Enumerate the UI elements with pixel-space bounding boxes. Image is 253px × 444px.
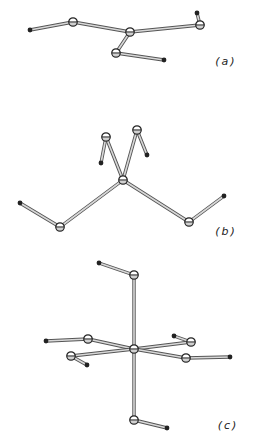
ring-atom bbox=[130, 271, 138, 279]
bond-highlight bbox=[189, 196, 224, 222]
bond-highlight bbox=[130, 25, 200, 32]
panel-label-c: (c) bbox=[218, 419, 239, 432]
small-atom bbox=[99, 161, 104, 166]
panel-c bbox=[44, 261, 233, 431]
ring-atom bbox=[112, 49, 120, 57]
bond-highlight bbox=[134, 349, 186, 358]
ring-atom bbox=[119, 176, 127, 184]
ring-atom bbox=[130, 345, 138, 353]
bond-highlight bbox=[116, 53, 164, 60]
small-atom bbox=[222, 194, 227, 199]
bond-highlight bbox=[134, 342, 191, 349]
bond-highlight bbox=[20, 203, 60, 227]
small-atom bbox=[162, 58, 167, 63]
small-atom bbox=[165, 426, 170, 431]
small-atom bbox=[28, 28, 33, 33]
small-atom bbox=[145, 153, 150, 158]
bond-highlight bbox=[123, 130, 137, 180]
ring-atom bbox=[130, 416, 138, 424]
ring-atom bbox=[84, 335, 92, 343]
small-atom bbox=[85, 363, 90, 368]
small-atom bbox=[44, 339, 49, 344]
molecular-structure-figure: (a) (b) (c) bbox=[0, 0, 253, 444]
bond-highlight bbox=[186, 357, 230, 358]
ring-atom bbox=[182, 354, 190, 362]
ring-atom bbox=[69, 18, 77, 26]
small-atom bbox=[195, 11, 200, 16]
bond-highlight bbox=[99, 263, 134, 275]
bond-highlight bbox=[134, 420, 167, 428]
bond-highlight bbox=[71, 349, 134, 356]
ring-atom bbox=[67, 352, 75, 360]
ring-atom bbox=[133, 126, 141, 134]
panel-a bbox=[28, 11, 205, 63]
bond-highlight bbox=[30, 22, 73, 30]
ring-atom bbox=[126, 28, 134, 36]
bond-highlight bbox=[123, 180, 189, 222]
bond-highlight bbox=[88, 339, 134, 349]
ring-atom bbox=[56, 223, 64, 231]
bond-highlight bbox=[106, 137, 123, 180]
small-atom bbox=[18, 201, 23, 206]
small-atom bbox=[97, 261, 102, 266]
small-atom bbox=[228, 355, 233, 360]
bond-highlight bbox=[60, 180, 123, 227]
small-atom bbox=[172, 334, 177, 339]
ring-atom bbox=[187, 338, 195, 346]
panel-label-b: (b) bbox=[215, 225, 237, 238]
ring-atom bbox=[196, 21, 204, 29]
ring-atom bbox=[102, 133, 110, 141]
bond-highlight bbox=[73, 22, 130, 32]
panel-b bbox=[18, 126, 227, 231]
ring-atom bbox=[185, 218, 193, 226]
panel-label-a: (a) bbox=[215, 55, 236, 68]
